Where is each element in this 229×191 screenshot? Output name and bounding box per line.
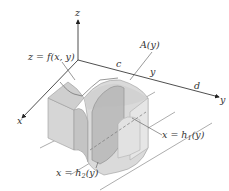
solid-body <box>48 80 148 175</box>
x-axis-label: x <box>17 115 23 126</box>
y-slice-label: y <box>149 66 156 77</box>
y-upper-bound-label: d <box>194 80 200 91</box>
solid-front-curve-face <box>74 109 88 163</box>
y-axis-label: y <box>219 94 226 105</box>
y-lower-bound-label: c <box>116 58 122 69</box>
cross-section-label: A(y) <box>139 39 160 50</box>
z-axis-label: z <box>74 7 81 18</box>
boundary-h2-label: x = h2(y) <box>56 167 99 180</box>
surface-label: z = f(x, y) <box>27 51 75 62</box>
solid-volume-diagram: z y x z = f(x, y) A(y) c y d x = h1(y) x… <box>0 0 229 191</box>
solid-inner-arch <box>118 117 140 158</box>
